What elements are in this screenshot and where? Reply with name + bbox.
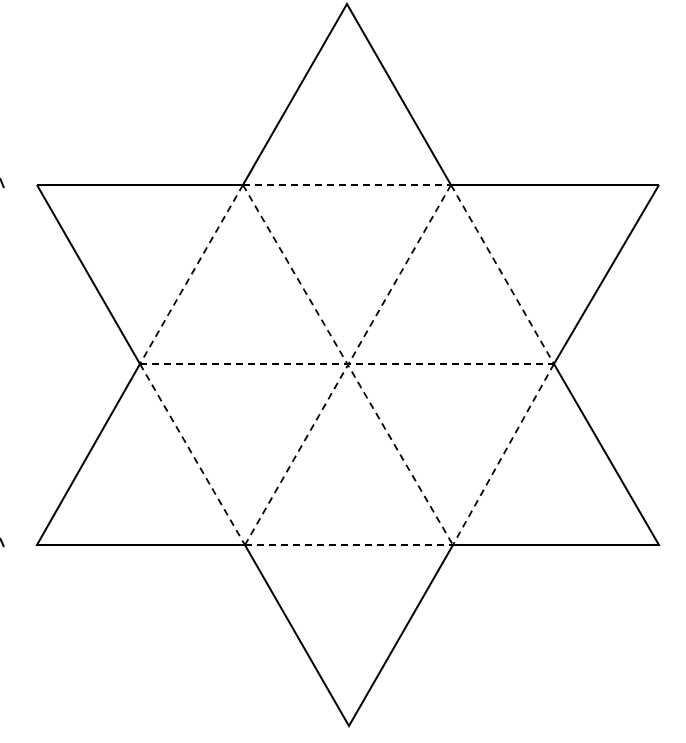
- fold-diagonal-2: [245, 185, 451, 545]
- fold-lines: [140, 185, 554, 545]
- fold-upper-right-hex: [451, 185, 554, 364]
- left-upper-point: [37, 185, 140, 364]
- left-lower-point: [37, 364, 245, 545]
- top-point: [243, 4, 451, 185]
- right-upper-point: [554, 185, 659, 364]
- hexagram-diagram: [0, 0, 686, 743]
- right-lower-point: [453, 364, 659, 545]
- fold-upper-left-hex: [140, 185, 243, 364]
- bottom-point: [245, 545, 453, 726]
- fold-lower-left-hex: [140, 364, 245, 545]
- edge-marks: [0, 178, 4, 547]
- edge-mark-top: [0, 178, 4, 188]
- fold-lower-right-hex: [453, 364, 554, 545]
- edge-mark-bottom: [0, 538, 4, 547]
